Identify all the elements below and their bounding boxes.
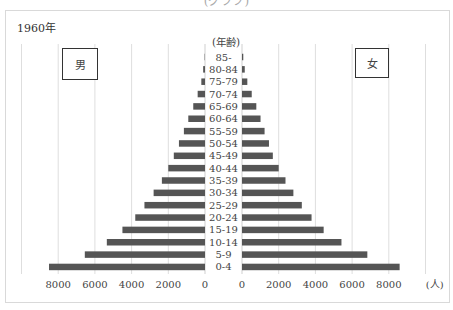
female-bar [242,91,252,98]
male-bar [184,128,205,135]
age-tick-label: 50-54 [209,138,238,149]
male-bar [154,190,205,197]
age-tick-label: 75-79 [209,76,238,87]
female-bar [242,116,261,123]
x-tick-label-right: 4000 [303,279,328,290]
x-tick-label-right: 2000 [266,279,291,290]
male-bar [85,251,205,258]
female-bar [242,78,247,85]
x-tick-label-right: 8000 [376,279,401,290]
male-bar [122,227,205,234]
female-bar [242,153,273,160]
female-bar [242,227,324,234]
male-bar [49,264,205,271]
female-label: 女 [367,55,378,71]
male-bar [203,66,205,73]
male-bar [135,214,205,221]
x-tick-label-left: 2000 [156,279,181,290]
female-bar [242,128,265,135]
age-tick-label: 15-19 [209,224,238,235]
x-tick-label-right: 6000 [339,279,364,290]
female-bar [242,66,245,73]
age-tick-label: 30-34 [209,187,238,198]
male-bar [193,103,205,110]
x-tick-label-left: 6000 [82,279,107,290]
age-tick-label: 10-14 [209,237,238,248]
male-bar [201,78,205,85]
female-bar [242,140,269,147]
female-bar [242,103,256,110]
age-tick-label: 20-24 [209,212,238,223]
age-tick-label: 25-29 [209,200,238,211]
female-bar [242,165,279,172]
female-bar [242,54,243,61]
female-bar [242,177,285,184]
age-tick-label: 40-44 [209,163,238,174]
x-tick-label-left: 4000 [119,279,144,290]
male-label: 男 [75,56,86,72]
male-bar [198,91,205,98]
female-legend-box: 女 [355,48,389,78]
unit-label: (人) [426,279,444,290]
male-bar [162,177,205,184]
x-tick-label-left: 0 [202,279,208,290]
female-bar [242,239,341,246]
male-bar [144,202,205,209]
male-legend-box: 男 [62,48,98,80]
male-bar [174,153,205,160]
population-pyramid-chart: 85-80-8475-7970-7465-6960-6455-5950-5445… [0,0,453,310]
age-tick-label: 5-9 [215,249,231,260]
x-tick-label-left: 8000 [45,279,70,290]
female-bar [242,214,312,221]
female-bar [242,251,367,258]
female-bar [242,202,302,209]
age-tick-label: 70-74 [209,89,238,100]
age-tick-label: 35-39 [209,175,238,186]
male-bar [188,116,205,123]
age-tick-label: 65-69 [209,101,238,112]
male-bar [107,239,205,246]
x-tick-label-right: 0 [239,279,245,290]
age-tick-label: 80-84 [209,64,238,75]
age-tick-label: 60-64 [209,113,238,124]
female-bar [242,190,293,197]
female-bar [242,264,400,271]
age-tick-label: 0-4 [215,261,231,272]
age-tick-label: 85- [215,52,231,63]
male-bar [168,165,205,172]
age-tick-label: 45-49 [209,150,238,161]
age-tick-label: 55-59 [209,126,238,137]
male-bar [179,140,205,147]
